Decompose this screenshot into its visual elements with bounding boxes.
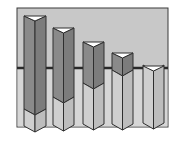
bar-3-lower-right-face — [94, 83, 105, 130]
bar-4-lower-left-face — [112, 70, 123, 130]
bar-4-lower-right-face — [123, 70, 134, 130]
prism-bar-diagram — [0, 0, 180, 145]
bar-3-lower-left-face — [83, 83, 94, 130]
bar-5-lower-left-face — [143, 65, 154, 129]
bar-2-upper-right-face — [64, 28, 75, 103]
bar-3-upper-right-face — [94, 42, 105, 89]
bar-2-lower-left-face — [53, 97, 64, 131]
bar-2-lower-right-face — [64, 97, 75, 131]
diagram-canvas — [0, 0, 180, 145]
bar-3-upper-left-face — [83, 42, 94, 89]
bar-2-upper-left-face — [53, 28, 64, 103]
bar-5-lower-right-face — [154, 65, 165, 129]
bar-1-upper-right-face — [35, 16, 46, 115]
bar-1-upper-left-face — [24, 16, 35, 115]
